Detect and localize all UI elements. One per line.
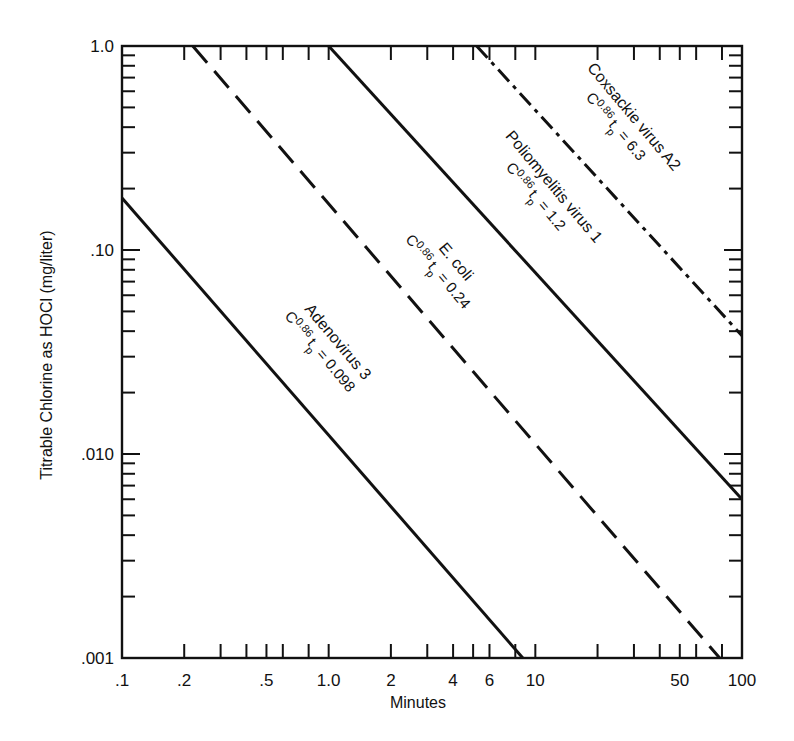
curve-labels: Adenovirus 3C0.86tp= 0.098E. coliC0.86tp… — [278, 59, 684, 399]
x-tick-label: 100 — [728, 671, 756, 690]
x-tick-label: 2 — [386, 671, 395, 690]
curve-label: Poliomyelitis virus 1C0.86tp= 1.2 — [483, 127, 606, 262]
x-tick-label: 4 — [448, 671, 457, 690]
y-tick-label: 1.0 — [90, 37, 114, 56]
curve-poliomyelitis-virus-1 — [329, 46, 742, 499]
x-tick-label: .1 — [115, 671, 129, 690]
y-tick-label: .001 — [81, 649, 114, 668]
x-axis-title: Minutes — [390, 694, 446, 711]
x-tick-label: .2 — [177, 671, 191, 690]
x-tick-label: .5 — [259, 671, 273, 690]
y-axis-title: Titrable Chlorine as HOCl (mg/liter) — [38, 230, 55, 479]
y-axis-tick-labels: 1.0.10.010.001 — [81, 37, 114, 668]
y-tick-label: .10 — [90, 241, 114, 260]
curve-label: Adenovirus 3C0.86tp= 0.098 — [278, 295, 375, 399]
y-tick-label: .010 — [81, 445, 114, 464]
curve-e-coli — [193, 46, 720, 658]
x-tick-label: 6 — [485, 671, 494, 690]
x-tick-label: 1.0 — [317, 671, 341, 690]
curve-label: Coxsackie virus A2C0.86tp= 6.3 — [565, 59, 684, 190]
x-tick-label: 50 — [670, 671, 689, 690]
log-log-inactivation-chart: .1.2.51.02461050100 1.0.10.010.001 Adeno… — [0, 0, 794, 741]
x-axis-tick-labels: .1.2.51.02461050100 — [115, 671, 756, 690]
x-tick-label: 10 — [526, 671, 545, 690]
